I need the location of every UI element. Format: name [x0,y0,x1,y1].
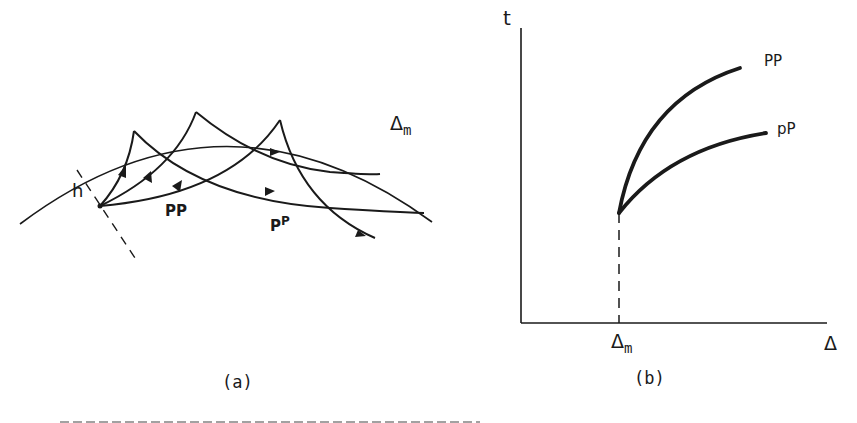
figure-caption-clipped [60,418,480,423]
critical-distance-label-a: Δm [390,112,411,138]
arrowhead-icons [118,148,366,237]
pp-ray-label: PP [165,202,187,220]
x-tick-delta-m: Δm [611,330,632,356]
diagram-canvas [0,0,857,423]
x-tick-base: Δ [611,330,624,352]
curve-label-pP: pP [777,120,796,138]
y-axis-label: t [503,6,511,30]
curve-label-PP: PP [764,52,782,70]
source-point [98,204,103,209]
panel-a-caption: (a) [222,372,253,392]
pP-ray-base: P [270,217,281,235]
depth-label: h [72,180,83,201]
pP-ray-sup: P [281,214,290,228]
x-tick-sub: m [624,340,632,356]
panel-b-caption: (b) [634,368,665,388]
critical-distance-base-a: Δ [390,112,403,134]
critical-distance-sub-a: m [403,122,411,138]
pP-ray-label: PP [270,214,290,235]
x-axis-label: Δ [824,332,837,354]
